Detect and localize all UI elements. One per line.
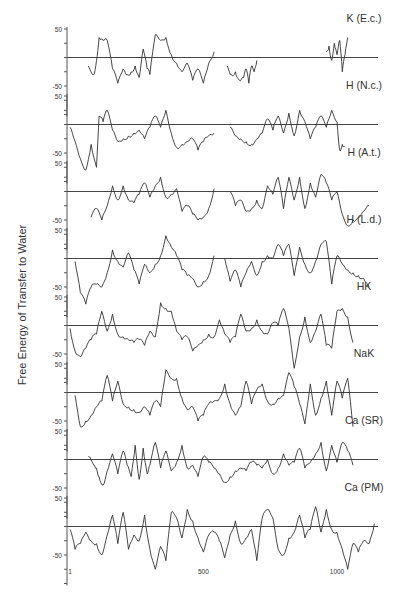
- x-tick-label: 500: [198, 568, 209, 575]
- panel-label: H (N.c.): [346, 79, 382, 91]
- series-line: [75, 236, 214, 304]
- y-tick-label-neg50: -50: [53, 485, 63, 492]
- y-tick-label-50: 50: [55, 93, 63, 100]
- series-line: [230, 110, 345, 151]
- panel-label: H (L.d.): [346, 213, 381, 225]
- panel-0: 50-50K (E.c.): [53, 12, 382, 117]
- panel-label: HK: [357, 280, 372, 292]
- y-tick-label-neg50: -50: [53, 217, 63, 224]
- y-tick-label-50: 50: [55, 428, 63, 435]
- y-tick-label-neg50: -50: [53, 83, 63, 90]
- panel-5: 50-50NaK: [53, 347, 378, 452]
- y-tick-label-50: 50: [55, 294, 63, 301]
- series-line: [326, 38, 347, 72]
- series-line: [227, 60, 256, 83]
- series-line: [88, 442, 353, 485]
- panel-label: Ca (SR): [345, 414, 383, 426]
- series-line: [225, 240, 369, 287]
- panel-label: NaK: [354, 347, 374, 359]
- x-tick-label: 1000: [330, 568, 345, 575]
- y-tick-label-50: 50: [55, 227, 63, 234]
- panel-6: 50-50Ca (SR): [53, 414, 383, 519]
- x-tick-label: 1: [68, 568, 72, 575]
- stacked-line-chart: 50-50K (E.c.)50-50H (N.c.)50-50H (A.t.)5…: [0, 0, 398, 601]
- panel-3: 50-50H (L.d.): [53, 213, 382, 318]
- series-line: [70, 507, 374, 570]
- y-tick-label-neg50: -50: [53, 150, 63, 157]
- y-tick-label-neg50: -50: [53, 418, 63, 425]
- y-tick-label-neg50: -50: [53, 284, 63, 291]
- y-tick-label-50: 50: [55, 26, 63, 33]
- panel-2: 50-50H (A.t.): [53, 146, 381, 251]
- y-tick-label-neg50: -50: [53, 552, 63, 559]
- series-line: [70, 110, 214, 170]
- panel-4: 50-50HK: [53, 280, 378, 385]
- series-line: [91, 177, 214, 220]
- panel-label: K (E.c.): [346, 12, 381, 24]
- y-tick-label-50: 50: [55, 495, 63, 502]
- series-line: [88, 35, 214, 83]
- panel-label: H (A.t.): [347, 146, 380, 158]
- y-tick-label-neg50: -50: [53, 351, 63, 358]
- y-tick-label-50: 50: [55, 361, 63, 368]
- series-line: [70, 303, 353, 369]
- panel-1: 50-50H (N.c.): [53, 79, 382, 184]
- panel-label: Ca (PM): [344, 481, 383, 493]
- y-tick-label-50: 50: [55, 160, 63, 167]
- series-line: [75, 370, 353, 427]
